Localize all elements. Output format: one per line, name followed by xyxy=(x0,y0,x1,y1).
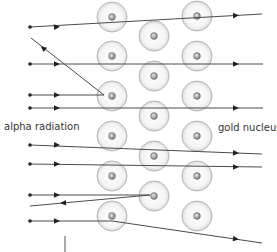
nucleus-icon xyxy=(109,14,116,21)
gold-atom xyxy=(182,41,212,71)
source-dot xyxy=(28,25,32,29)
arrow-icon xyxy=(54,161,60,167)
nucleus-icon xyxy=(194,133,201,140)
nucleus-icon xyxy=(151,193,158,200)
nucleus-icon xyxy=(151,33,158,40)
arrow-icon xyxy=(233,164,239,170)
nucleus-icon xyxy=(194,53,201,60)
arrow-icon xyxy=(233,13,239,19)
gold-atom xyxy=(139,61,169,91)
source-dot xyxy=(28,193,32,197)
arrow-icon xyxy=(233,236,239,242)
alpha-particle-path xyxy=(28,218,262,243)
arrow-icon xyxy=(41,46,47,52)
arrow-icon xyxy=(54,61,60,67)
gold-atom xyxy=(139,101,169,131)
gold-atom xyxy=(97,2,127,32)
source-dot xyxy=(28,93,32,97)
arrow-icon xyxy=(233,61,239,67)
alpha-particle-path xyxy=(28,38,104,98)
nucleus-icon xyxy=(109,213,116,220)
gold-atom xyxy=(97,201,127,231)
source-dot xyxy=(28,106,32,110)
arrow-icon xyxy=(233,105,239,111)
nucleus-icon xyxy=(194,213,201,220)
source-dot xyxy=(28,219,32,223)
source-dot xyxy=(28,162,32,166)
nucleus-icon xyxy=(194,173,201,180)
gold-atom xyxy=(182,201,212,231)
gold-atom xyxy=(182,81,212,111)
arrow-icon xyxy=(54,192,60,198)
nucleus-icon xyxy=(151,153,158,160)
arrow-icon xyxy=(54,105,60,111)
gold-atom xyxy=(97,41,127,71)
nucleus-icon xyxy=(194,93,201,100)
nucleus-icon xyxy=(151,113,158,120)
nucleus-icon xyxy=(109,173,116,180)
arrow-icon xyxy=(233,150,239,156)
gold-atom xyxy=(139,141,169,171)
nucleus-icon xyxy=(109,133,116,140)
gold-atom xyxy=(182,161,212,191)
gold-atom xyxy=(182,1,212,31)
arrow-icon xyxy=(54,92,60,98)
gold-atom xyxy=(139,21,169,51)
gold-atoms-layer xyxy=(97,1,212,231)
alpha-particle-path xyxy=(28,192,150,206)
nucleus-icon xyxy=(194,13,201,20)
source-dot xyxy=(28,143,32,147)
gold-atom xyxy=(97,121,127,151)
arrow-icon xyxy=(54,218,60,224)
nucleus-icon xyxy=(109,93,116,100)
source-dot xyxy=(28,62,32,66)
arrow-icon xyxy=(54,142,60,148)
gold-atom xyxy=(97,81,127,111)
nucleus-icon xyxy=(109,53,116,60)
alpha-radiation-label: alpha radiation xyxy=(4,121,80,132)
nucleus-icon xyxy=(151,73,158,80)
gold-nucleus-label: gold nucleus xyxy=(218,122,277,133)
gold-atom xyxy=(182,121,212,151)
